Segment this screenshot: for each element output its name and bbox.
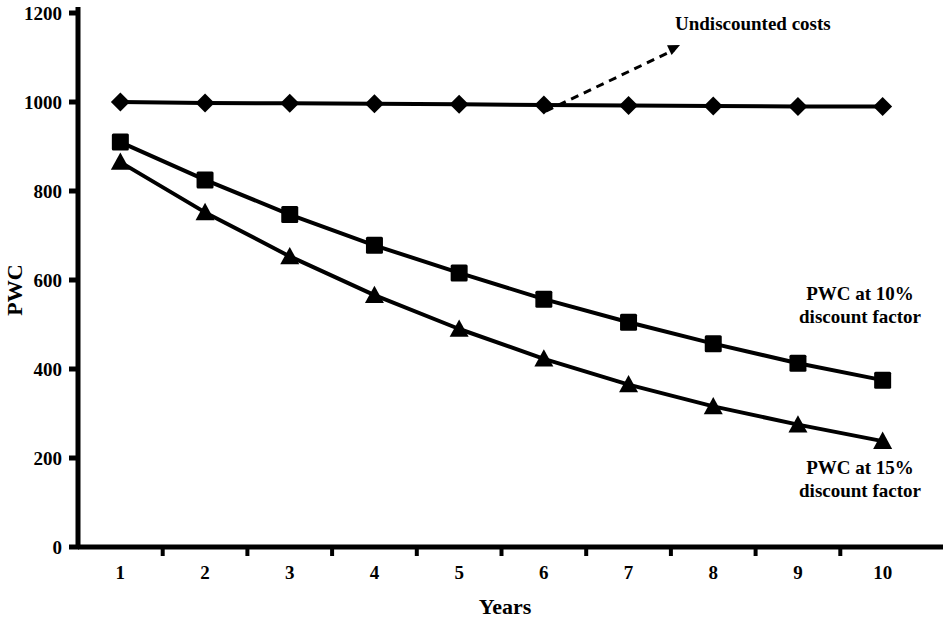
y-tick-label: 1000 — [24, 92, 62, 113]
series-1 — [111, 93, 892, 116]
marker-square — [620, 314, 637, 331]
y-axis-title: PWC — [2, 264, 27, 315]
marker-diamond — [365, 94, 384, 113]
marker-diamond — [704, 97, 723, 116]
chart-canvas: 02004006008001000120012345678910 Undisco… — [0, 0, 945, 624]
x-tick-label: 4 — [370, 562, 380, 583]
x-tick-label: 7 — [624, 562, 634, 583]
x-tick-label: 1 — [116, 562, 126, 583]
y-tick-label: 200 — [34, 448, 63, 469]
annotations: Undiscounted costsPWC at 10%discount fac… — [546, 13, 922, 501]
marker-diamond — [450, 95, 469, 114]
marker-square — [366, 237, 383, 254]
marker-square — [874, 372, 891, 389]
annotation-leader-line — [546, 50, 674, 111]
y-tick-label: 0 — [53, 537, 63, 558]
x-tick-label: 6 — [539, 562, 549, 583]
y-tick-label: 600 — [34, 270, 63, 291]
annotation-undiscounted-costs: Undiscounted costs — [675, 13, 831, 34]
annotation-pwc-10-line: PWC at 10% — [806, 283, 914, 304]
x-tick-label: 10 — [873, 562, 892, 583]
marker-diamond — [873, 97, 892, 116]
annotation-arrowhead — [667, 45, 680, 55]
marker-diamond — [534, 96, 553, 115]
series-line — [120, 162, 882, 441]
pwc-line-chart: 02004006008001000120012345678910 Undisco… — [0, 0, 945, 624]
annotation-pwc-10-line: discount factor — [799, 306, 921, 327]
marker-triangle — [280, 247, 299, 264]
marker-diamond — [280, 94, 299, 113]
marker-square — [705, 335, 722, 352]
annotation-pwc-10: PWC at 10%discount factor — [799, 283, 921, 327]
marker-square — [535, 291, 552, 308]
marker-diamond — [111, 93, 130, 112]
marker-triangle — [196, 203, 215, 220]
marker-diamond — [619, 96, 638, 115]
x-tick-label: 8 — [709, 562, 719, 583]
marker-square — [112, 134, 129, 151]
marker-triangle — [111, 153, 130, 170]
series-3 — [111, 153, 892, 449]
marker-square — [197, 171, 214, 188]
series-line — [120, 102, 882, 107]
y-tick-label: 1200 — [24, 3, 62, 24]
series-2 — [112, 134, 891, 389]
marker-square — [281, 206, 298, 223]
annotation-pwc-15: PWC at 15%discount factor — [799, 457, 921, 501]
x-tick-label: 9 — [793, 562, 803, 583]
x-axis-title: Years — [479, 594, 532, 619]
marker-diamond — [196, 93, 215, 112]
x-tick-label: 5 — [454, 562, 464, 583]
annotation-pwc-15-line: discount factor — [799, 480, 921, 501]
x-tick-label: 2 — [200, 562, 210, 583]
y-tick-label: 400 — [34, 359, 63, 380]
marker-square — [789, 355, 806, 372]
annotation-pwc-15-line: PWC at 15% — [806, 457, 914, 478]
data-series — [111, 93, 892, 449]
y-tick-label: 800 — [34, 181, 63, 202]
x-tick-label: 3 — [285, 562, 295, 583]
marker-diamond — [788, 97, 807, 116]
marker-square — [451, 264, 468, 281]
